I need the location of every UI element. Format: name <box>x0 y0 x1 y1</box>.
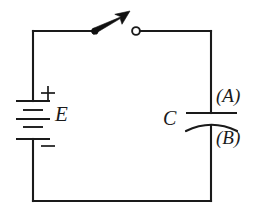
label-emf-E: E <box>55 104 68 125</box>
battery-plus-sign <box>41 86 55 100</box>
circuit-diagram-figure: E C (A) (B) <box>0 0 262 219</box>
label-plate-B: (B) <box>216 128 240 147</box>
label-plate-A: (A) <box>216 86 240 105</box>
switch-open-terminal-icon[interactable] <box>132 27 140 35</box>
label-capacitor-C: C <box>163 108 176 128</box>
switch-pivot-dot <box>92 28 99 35</box>
circuit-schematic-canvas <box>0 0 262 219</box>
